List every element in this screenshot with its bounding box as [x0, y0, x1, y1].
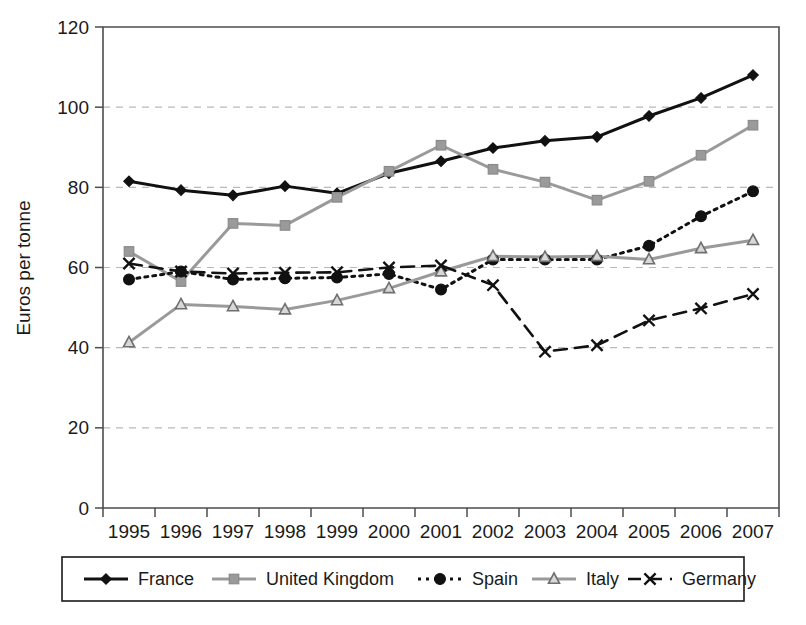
chart-container: 020406080100120 199519961997199819992000…: [0, 0, 806, 625]
x-tick-label-1999: 1999: [316, 521, 358, 542]
marker-france-2005: [644, 111, 654, 121]
marker-france-2001: [436, 156, 446, 166]
marker-united-kingdom-1999: [332, 193, 342, 203]
marker-united-kingdom-1995: [124, 247, 134, 257]
legend-label: Germany: [682, 569, 756, 589]
chart-legend: FranceUnited KingdomSpainItalyGermany: [62, 557, 756, 601]
legend-marker-square-icon: [229, 574, 239, 584]
y-tick-label-60: 60: [68, 257, 89, 278]
marker-spain-2001: [436, 284, 447, 295]
y-axis-title: Euros per tonne: [13, 200, 34, 335]
marker-united-kingdom-1997: [228, 219, 238, 229]
marker-spain-1998: [280, 273, 291, 284]
y-tick-label-120: 120: [57, 17, 89, 38]
x-tick-label-2005: 2005: [628, 521, 670, 542]
y-tick-label-0: 0: [78, 498, 89, 519]
marker-spain-2006: [696, 211, 707, 222]
marker-france-2002: [488, 143, 498, 153]
marker-united-kingdom-2001: [436, 140, 446, 150]
y-tick-label-20: 20: [68, 417, 89, 438]
legend-label: Italy: [586, 569, 619, 589]
legend-label: United Kingdom: [266, 569, 394, 589]
marker-spain-2007: [748, 186, 759, 197]
marker-united-kingdom-2006: [696, 151, 706, 161]
marker-france-1998: [280, 181, 290, 191]
y-tick-label-80: 80: [68, 177, 89, 198]
x-axis-ticks: 1995199619971998199920002001200220032004…: [103, 508, 779, 542]
x-tick-label-2002: 2002: [472, 521, 514, 542]
series-line-germany: [129, 263, 753, 351]
marker-united-kingdom-2005: [644, 177, 654, 187]
marker-germany-2004: [591, 340, 602, 351]
x-tick-label-1997: 1997: [212, 521, 254, 542]
marker-germany-2002: [487, 280, 498, 291]
x-tick-label-2000: 2000: [368, 521, 410, 542]
marker-france-2004: [592, 132, 602, 142]
x-tick-label-2004: 2004: [576, 521, 619, 542]
marker-united-kingdom-2007: [748, 120, 758, 129]
legend-marker-circle-icon: [435, 574, 446, 585]
series-lines: [129, 75, 753, 352]
legend-label: France: [138, 569, 194, 589]
marker-united-kingdom-1998: [280, 221, 290, 231]
x-tick-label-2006: 2006: [680, 521, 722, 542]
x-tick-label-2001: 2001: [420, 521, 462, 542]
legend-label: Spain: [472, 569, 518, 589]
y-tick-label-100: 100: [57, 97, 89, 118]
marker-united-kingdom-2002: [488, 165, 498, 175]
marker-united-kingdom-2000: [384, 167, 394, 177]
y-axis-title-label: Euros per tonne: [13, 200, 34, 335]
marker-spain-1995: [124, 274, 135, 285]
y-axis-ticks: 020406080100120: [57, 17, 103, 519]
marker-united-kingdom-1996: [176, 277, 186, 287]
marker-united-kingdom-2004: [592, 195, 602, 205]
marker-france-1997: [228, 190, 238, 200]
marker-spain-2005: [644, 240, 655, 251]
marker-france-2007: [748, 70, 758, 80]
x-tick-label-1995: 1995: [108, 521, 150, 542]
line-chart: 020406080100120 199519961997199819992000…: [0, 0, 806, 625]
marker-france-1996: [176, 185, 186, 195]
marker-germany-2007: [747, 288, 758, 299]
marker-france-2003: [540, 136, 550, 146]
marker-france-1995: [124, 176, 134, 186]
series-markers: [123, 70, 758, 357]
x-tick-label-1998: 1998: [264, 521, 306, 542]
x-tick-label-1996: 1996: [160, 521, 202, 542]
y-tick-label-40: 40: [68, 337, 89, 358]
x-tick-label-2003: 2003: [524, 521, 566, 542]
x-tick-label-2007: 2007: [732, 521, 774, 542]
marker-france-2006: [696, 93, 706, 103]
marker-united-kingdom-2003: [540, 177, 550, 187]
